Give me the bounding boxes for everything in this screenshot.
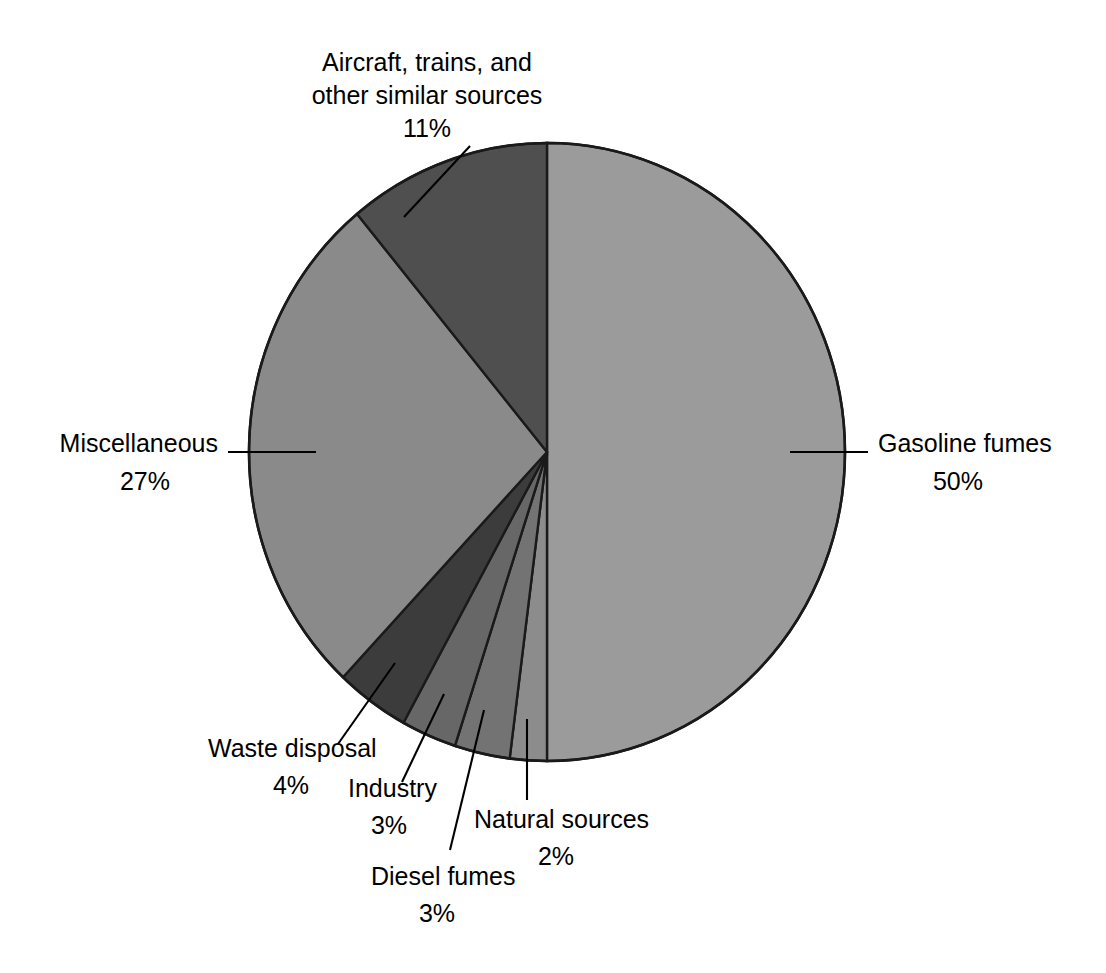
label-waste-disposal-pct: 4% (273, 771, 309, 799)
pie-chart-figure: Gasoline fumes 50%Natural sources 2%Dies… (0, 0, 1106, 973)
label-aircraft-line2: other similar sources (312, 81, 543, 109)
label-diesel-fumes-pct: 3% (419, 899, 455, 927)
pie-slices-group: Gasoline fumes 50%Natural sources 2%Dies… (249, 143, 845, 761)
label-natural-sources-pct: 2% (538, 842, 574, 870)
label-aircraft-line1: Aircraft, trains, and (322, 48, 532, 76)
label-miscellaneous-line1: Miscellaneous (60, 429, 218, 457)
label-gasoline-pct: 50% (933, 467, 983, 495)
pie-chart-page: Gasoline fumes 50%Natural sources 2%Dies… (0, 0, 1106, 973)
label-waste-disposal-line1: Waste disposal (208, 734, 377, 762)
label-diesel-fumes-line1: Diesel fumes (371, 862, 516, 890)
label-aircraft-pct: 11% (403, 114, 451, 142)
label-industry-line1: Industry (348, 774, 437, 802)
label-natural-sources-line1: Natural sources (474, 805, 649, 833)
label-gasoline-line1: Gasoline fumes (878, 429, 1052, 457)
label-miscellaneous-pct: 27% (120, 467, 170, 495)
label-industry-pct: 3% (371, 811, 407, 839)
